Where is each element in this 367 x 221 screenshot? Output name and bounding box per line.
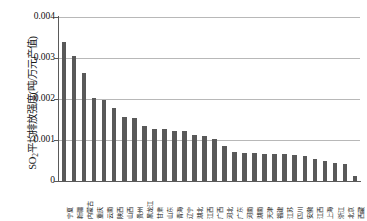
x-axis-tick-label: 青海 xyxy=(177,207,184,219)
bar xyxy=(172,131,177,181)
x-axis-tick-label: 河南 xyxy=(247,207,254,219)
bar xyxy=(152,129,157,181)
bar xyxy=(192,135,197,181)
x-axis-tick-label: 河北 xyxy=(227,207,234,219)
bar xyxy=(162,129,167,181)
x-axis-tick-labels: 宁夏新疆内蒙古重庆云南陕西山西贵州黑龙江甘肃山东青海辽宁湖北江西广西河北广东河南… xyxy=(59,182,360,221)
bar xyxy=(142,126,147,181)
bar xyxy=(333,163,338,181)
y-axis-tick-label: 0.001 xyxy=(11,135,55,145)
bar xyxy=(353,176,358,181)
bar xyxy=(122,117,127,181)
y-axis-tick-mark xyxy=(54,181,59,182)
x-axis-tick-label: 江西 xyxy=(207,207,214,219)
x-axis-tick-label: 陕西 xyxy=(117,207,124,219)
x-axis-tick-label: 天津 xyxy=(267,207,274,219)
x-axis-tick-label: 江西 xyxy=(317,207,324,219)
x-axis-tick-label: 新疆 xyxy=(77,207,84,219)
bar xyxy=(72,56,77,181)
x-axis-tick-label: 广西 xyxy=(217,207,224,219)
x-axis-tick-label: 广东 xyxy=(237,207,244,219)
x-axis-tick-label: 甘肃 xyxy=(157,207,164,219)
x-axis-tick-label: 湖北 xyxy=(197,207,204,219)
bar xyxy=(252,153,257,181)
bar xyxy=(323,161,328,181)
bar xyxy=(272,154,277,181)
bar xyxy=(313,159,318,181)
y-axis-tick-mark xyxy=(54,140,59,141)
bar xyxy=(102,100,107,181)
bar-series xyxy=(59,17,360,181)
y-axis-tick-mark xyxy=(54,58,59,59)
x-axis-tick-label: 山西 xyxy=(127,207,134,219)
x-axis-tick-label: 西藏 xyxy=(358,207,365,219)
bar xyxy=(62,42,67,181)
bar xyxy=(132,118,137,181)
y-axis-tick-label: 0.003 xyxy=(11,53,55,63)
x-axis-tick-label: 北京 xyxy=(348,207,355,219)
x-axis-tick-label: 湖南 xyxy=(257,207,264,219)
y-axis-tick-label: 0.004 xyxy=(11,12,55,22)
bar xyxy=(232,152,237,181)
bar xyxy=(262,154,267,181)
x-axis-tick-label: 四川 xyxy=(297,207,304,219)
x-axis-tick-label: 江苏 xyxy=(287,207,294,219)
x-axis-tick-label: 辽宁 xyxy=(187,207,194,219)
x-axis-tick-label: 重庆 xyxy=(97,207,104,219)
x-axis-tick-label: 福建 xyxy=(277,207,284,219)
bar xyxy=(343,164,348,181)
y-axis-tick-label: 0 xyxy=(11,176,55,186)
x-axis-tick-label: 安徽 xyxy=(307,207,314,219)
bar xyxy=(182,131,187,181)
bar xyxy=(242,153,247,181)
x-axis-tick-label: 宁夏 xyxy=(67,207,74,219)
bar xyxy=(212,139,217,181)
x-axis-tick-label: 浙江 xyxy=(338,207,345,219)
bar xyxy=(282,154,287,181)
y-axis-tick-mark xyxy=(54,99,59,100)
x-axis-tick-label: 云南 xyxy=(107,207,114,219)
bar xyxy=(292,155,297,181)
bar xyxy=(82,73,87,181)
so2-emission-intensity-bar-chart: SO2平均排放强度(吨/万元产值) 00.0010.0020.0030.004 … xyxy=(0,0,367,221)
bar xyxy=(92,98,97,181)
bar xyxy=(303,156,308,181)
x-axis-tick-label: 内蒙古 xyxy=(87,201,94,219)
bar xyxy=(222,146,227,181)
y-axis-tick-labels: 00.0010.0020.0030.004 xyxy=(10,0,55,221)
x-axis-tick-label: 黑龙江 xyxy=(147,201,154,219)
x-axis-tick-label: 上海 xyxy=(327,207,334,219)
x-axis-tick-label: 贵州 xyxy=(137,207,144,219)
bar xyxy=(202,136,207,182)
y-axis-tick-label: 0.002 xyxy=(11,94,55,104)
bar xyxy=(112,108,117,181)
x-axis-tick-label: 山东 xyxy=(167,207,174,219)
y-axis-tick-mark xyxy=(54,17,59,18)
